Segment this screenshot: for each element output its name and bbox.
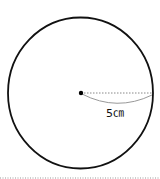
center-point — [79, 91, 83, 95]
circle-diagram: 5㎝ — [0, 0, 160, 179]
radius-label: 5㎝ — [106, 107, 124, 120]
radius-arc — [82, 94, 152, 103]
